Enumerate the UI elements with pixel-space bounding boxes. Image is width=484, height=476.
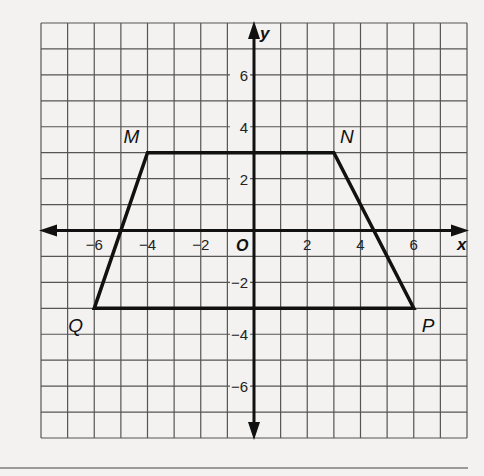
y-tick-label: −2 [231,274,248,291]
axes [39,21,469,440]
y-tick-label: 4 [240,119,248,136]
y-tick-label: −4 [231,326,248,343]
y-tick-label: 6 [240,67,248,84]
vertex-label-n: N [340,126,354,147]
x-tick-label: 4 [356,236,364,253]
coordinate-plane: −6−4−2246642−2−4−6xyO MNPQ [0,0,484,476]
y-axis-down-arrow-icon [248,422,260,440]
x-tick-label: −4 [139,236,156,253]
x-tick-label: 2 [303,236,311,253]
y-tick-label: −6 [231,378,248,395]
y-axis-up-arrow-icon [248,21,260,39]
tick-labels: −6−4−2246642−2−4−6xyO [86,24,468,395]
vertex-label-q: Q [68,315,83,336]
vertex-label-m: M [124,126,140,147]
origin-label: O [236,237,249,254]
y-axis-label: y [259,24,271,43]
x-tick-label: 6 [410,236,418,253]
page-divider [0,467,468,469]
x-tick-label: −6 [86,236,103,253]
x-axis-label: x [456,235,468,254]
x-tick-label: −2 [192,236,209,253]
y-tick-label: 2 [240,171,248,188]
vertex-label-p: P [422,315,435,336]
x-axis-left-arrow-icon [39,225,57,237]
